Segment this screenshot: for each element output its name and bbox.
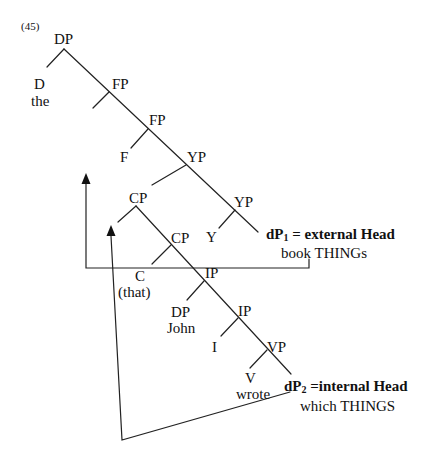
node-vp: VP [267,340,286,355]
example-number: (45) [21,21,39,32]
branch-fp1-spec [93,92,109,108]
node-fp1: FP [112,77,129,92]
word-that: (that) [118,285,150,300]
node-dp-root: DP [54,32,73,47]
branch-y [219,210,235,228]
branch-d [47,49,64,67]
node-cp1: CP [129,191,147,206]
internal-head-gloss: which THINGS [300,399,395,414]
node-ip1: IP [205,266,218,281]
word-john: John [167,321,195,336]
branch-dp-john [187,281,204,300]
node-c: C [135,269,145,284]
node-y: Y [206,230,217,245]
arrowhead-internal [107,225,116,236]
node-v: V [245,371,256,386]
branch-c [152,245,171,264]
branch-cp-spec [118,206,136,222]
external-head-label: dP1 = external Head [266,227,395,242]
word-the: the [31,94,49,109]
branch-i [221,318,238,336]
external-head-dp: dP [266,226,284,242]
external-head-text: = external Head [289,226,395,242]
movement-arrow-internal [111,236,290,440]
arrowhead-external [82,173,91,184]
internal-head-text: =internal Head [307,378,408,394]
word-wrote: wrote [236,387,270,402]
branch-v [250,350,267,368]
node-f: F [120,150,128,165]
node-cp2: CP [171,231,189,246]
internal-head-dp: dP [284,378,302,394]
node-dp-john: DP [171,305,190,320]
node-fp2: FP [149,113,166,128]
spine-main [64,49,258,232]
external-head-gloss: book THINGs [281,246,367,261]
node-d: D [34,77,45,92]
node-yp1: YP [187,150,206,165]
node-yp2: YP [234,195,253,210]
node-i: I [212,340,217,355]
node-ip2: IP [238,304,251,319]
branch-f [131,129,148,148]
branch-cp [152,165,186,185]
internal-head-label: dP2 =internal Head [284,379,408,394]
